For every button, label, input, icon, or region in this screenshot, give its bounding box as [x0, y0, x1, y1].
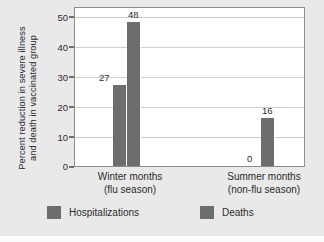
bar-value-summer-hospitalizations: 0	[247, 153, 252, 164]
gridline-40	[75, 47, 304, 48]
y-axis-title: Percent reduction in severe illness and …	[8, 8, 48, 188]
legend: Hospitalizations Deaths	[0, 203, 324, 223]
y-tick-label-40: 40	[48, 42, 68, 53]
legend-swatch-hospitalizations	[47, 206, 61, 219]
y-tick-label-50: 50	[48, 12, 68, 23]
bar-chart-figure: Percent reduction in severe illness and …	[0, 0, 324, 242]
category-label-summer: Summer months (non-flu season)	[204, 171, 324, 196]
legend-swatch-deaths	[200, 206, 214, 219]
plot-inner: 27 48 0 16	[75, 8, 304, 166]
bar-winter-deaths	[127, 22, 141, 166]
bar-value-winter-hospitalizations: 27	[99, 72, 110, 83]
legend-item-deaths: Deaths	[200, 206, 254, 219]
bar-value-summer-deaths: 16	[262, 105, 273, 116]
y-axis-title-line-2: and death in vaccinated group	[28, 35, 40, 161]
category-label-summer-line-2: (non-flu season)	[204, 184, 324, 197]
legend-label-deaths: Deaths	[222, 207, 254, 218]
bottom-white-strip	[0, 236, 324, 242]
legend-label-hospitalizations: Hospitalizations	[69, 207, 139, 218]
y-axis-title-line-1: Percent reduction in severe illness	[17, 26, 29, 169]
bar-summer-deaths	[261, 118, 275, 166]
y-tick-label-0: 0	[48, 161, 68, 172]
category-label-winter-line-2: (flu season)	[70, 184, 190, 197]
category-label-winter-line-1: Winter months	[70, 171, 190, 184]
category-label-winter: Winter months (flu season)	[70, 171, 190, 196]
bar-value-winter-deaths: 48	[128, 9, 139, 20]
gridline-50	[75, 17, 304, 18]
y-tick-label-30: 30	[48, 72, 68, 83]
bar-winter-hospitalizations	[113, 85, 127, 166]
legend-item-hospitalizations: Hospitalizations	[47, 206, 139, 219]
plot-area: 27 48 0 16	[74, 7, 305, 167]
category-label-summer-line-1: Summer months	[204, 171, 324, 184]
y-tick-label-10: 10	[48, 132, 68, 143]
y-tick-label-20: 20	[48, 102, 68, 113]
